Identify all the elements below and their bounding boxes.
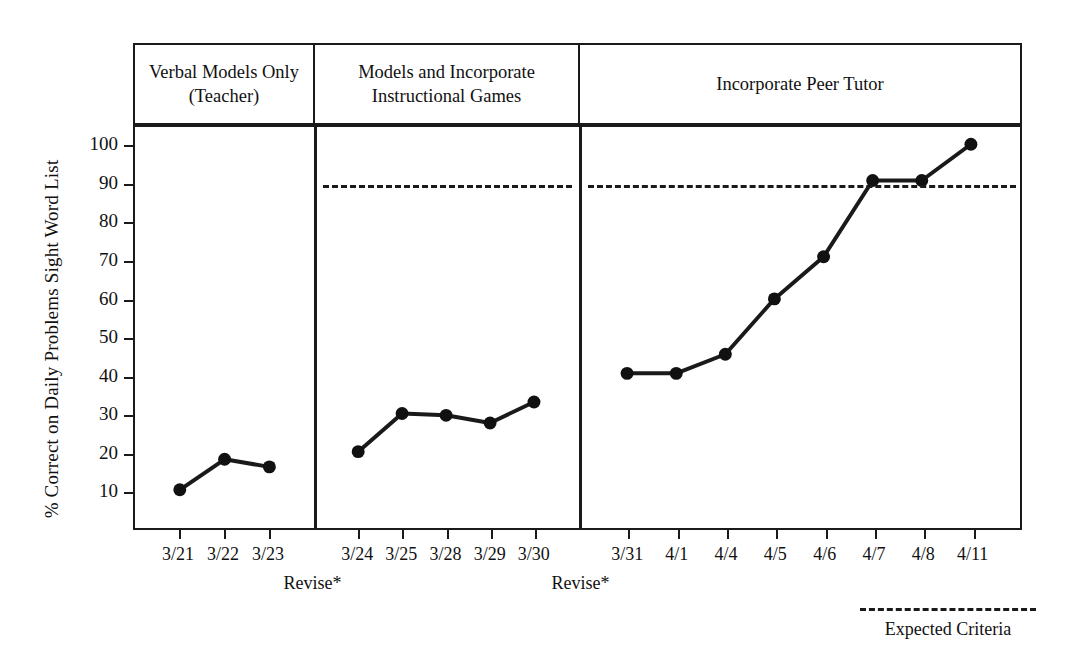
phase-header-1: Models and IncorporateInstructional Game…: [313, 43, 580, 125]
data-point: [817, 250, 830, 263]
data-point: [768, 292, 781, 305]
phase-header-label: Verbal Models Only(Teacher): [149, 60, 299, 109]
revise-annotation: Revise*: [552, 574, 610, 592]
data-point: [484, 417, 497, 430]
x-axis-tick-label: 4/4: [714, 545, 737, 563]
x-axis-tick-label: 3/21: [162, 545, 194, 563]
y-axis-tick: [124, 261, 135, 263]
x-axis-tick: [224, 528, 226, 539]
y-axis-tick-label: 20: [60, 443, 118, 462]
y-axis-tick: [124, 415, 135, 417]
x-axis-tick: [535, 528, 537, 539]
x-axis-tick-label: 3/23: [252, 545, 284, 563]
data-point: [352, 445, 365, 458]
y-axis-tick-label: 10: [60, 481, 118, 500]
x-axis-tick-label: 3/29: [474, 545, 506, 563]
x-axis-tick: [269, 528, 271, 539]
x-axis-tick: [875, 528, 877, 539]
x-axis-tick: [826, 528, 828, 539]
x-axis-tick-label: 3/31: [611, 545, 643, 563]
y-axis-title: % Correct on Daily Problems Sight Word L…: [38, 124, 66, 554]
x-axis-tick-label: 3/25: [385, 545, 417, 563]
phase-divider-1: [314, 127, 317, 528]
data-point: [218, 453, 231, 466]
y-axis-tick-label: 100: [60, 134, 118, 153]
data-point: [670, 367, 683, 380]
phase-header-row: Verbal Models Only(Teacher)Models and In…: [133, 43, 1022, 125]
phase-header-label: Incorporate Peer Tutor: [716, 72, 884, 96]
x-axis-tick-label: 4/6: [813, 545, 836, 563]
x-axis-tick-label: 3/22: [207, 545, 239, 563]
y-axis-tick-label: 80: [60, 211, 118, 230]
data-point: [621, 367, 634, 380]
x-axis-tick: [491, 528, 493, 539]
expected-criteria-line-phase-2: [588, 185, 1016, 188]
y-axis-tick-label: 40: [60, 366, 118, 385]
x-axis-tick-label: 4/1: [665, 545, 688, 563]
y-axis-tick: [124, 184, 135, 186]
x-axis-tick-label: 4/11: [957, 545, 988, 563]
phase-header-label: Models and IncorporateInstructional Game…: [358, 60, 535, 109]
phase-divider-2: [579, 127, 582, 528]
x-axis-tick-label: 4/8: [912, 545, 935, 563]
y-axis-tick: [124, 338, 135, 340]
x-axis-tick: [924, 528, 926, 539]
data-point: [719, 348, 732, 361]
data-point: [440, 409, 453, 422]
x-axis-tick-label: 3/30: [518, 545, 550, 563]
y-axis-tick: [124, 377, 135, 379]
x-axis-tick: [402, 528, 404, 539]
x-axis-tick-label: 3/28: [429, 545, 461, 563]
revise-annotation: Revise*: [284, 574, 342, 592]
x-axis-tick: [727, 528, 729, 539]
x-axis-tick: [447, 528, 449, 539]
data-point: [263, 460, 276, 473]
y-axis-tick-label: 70: [60, 250, 118, 269]
x-axis-tick: [974, 528, 976, 539]
legend: Expected Criteria: [853, 608, 1043, 638]
data-point: [173, 483, 186, 496]
chart-figure: % Correct on Daily Problems Sight Word L…: [0, 0, 1074, 651]
expected-criteria-dashed-swatch-icon: [860, 608, 1036, 611]
y-axis-tick-label: 30: [60, 404, 118, 423]
x-axis-tick: [358, 528, 360, 539]
data-point: [396, 407, 409, 420]
legend-label-expected-criteria: Expected Criteria: [853, 620, 1043, 638]
x-axis-tick-label: 4/7: [862, 545, 885, 563]
x-axis-tick-label: 4/5: [764, 545, 787, 563]
data-point: [528, 396, 541, 409]
phase-header-2: Incorporate Peer Tutor: [578, 43, 1022, 125]
x-axis-tick: [776, 528, 778, 539]
y-axis-tick: [124, 492, 135, 494]
y-axis-tick-label: 90: [60, 173, 118, 192]
y-axis-tick: [124, 454, 135, 456]
x-axis-tick: [179, 528, 181, 539]
plot-area: [133, 125, 1022, 530]
x-axis-tick: [628, 528, 630, 539]
y-axis-tick: [124, 145, 135, 147]
x-axis-tick: [678, 528, 680, 539]
y-axis-tick: [124, 300, 135, 302]
y-axis-tick-label: 60: [60, 289, 118, 308]
data-point: [964, 138, 977, 151]
expected-criteria-line-phase-1: [323, 185, 572, 188]
phase-header-0: Verbal Models Only(Teacher): [133, 43, 315, 125]
x-axis-tick-label: 3/24: [341, 545, 373, 563]
y-axis-tick: [124, 222, 135, 224]
y-axis-tick-label: 50: [60, 327, 118, 346]
